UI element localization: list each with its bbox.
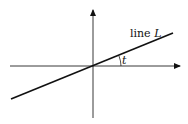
line-label: line L [130,27,161,40]
angle-label: t [122,54,127,67]
coordinate-diagram: line L t [0,0,188,124]
angle-arc [119,56,121,66]
